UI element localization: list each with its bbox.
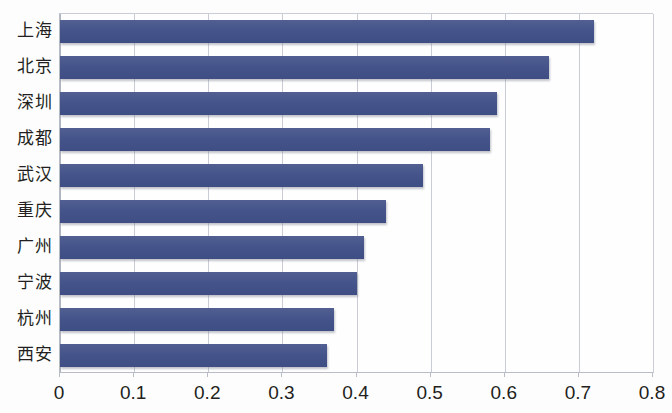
tick-mark (578, 373, 579, 377)
tick-label: 0.1 (120, 382, 146, 404)
bar-series (60, 14, 653, 373)
category-label: 上海 (0, 22, 52, 39)
tick-label: 0.5 (416, 382, 442, 404)
bar (60, 236, 364, 259)
tick-mark (356, 373, 357, 377)
tick-mark (652, 373, 653, 377)
category-label: 成都 (0, 130, 52, 147)
tick-label: 0.7 (565, 382, 591, 404)
category-label: 西安 (0, 346, 52, 363)
tick-label: 0.3 (268, 382, 294, 404)
tick-mark (207, 373, 208, 377)
tick-mark (430, 373, 431, 377)
tick-mark (59, 373, 60, 377)
bar (60, 128, 490, 151)
category-label: 北京 (0, 58, 52, 75)
category-label: 广州 (0, 238, 52, 255)
tick-label: 0.4 (342, 382, 368, 404)
category-label: 武汉 (0, 166, 52, 183)
tick-label: 0 (54, 382, 65, 404)
gridline (653, 14, 654, 373)
tick-label: 0.8 (639, 382, 665, 404)
category-label: 深圳 (0, 94, 52, 111)
category-label: 重庆 (0, 202, 52, 219)
category-label: 杭州 (0, 310, 52, 327)
category-axis: 上海北京深圳成都武汉重庆广州宁波杭州西安 (0, 13, 52, 372)
bar (60, 20, 594, 43)
tick-label: 0.6 (491, 382, 517, 404)
bar (60, 272, 357, 295)
horizontal-bar-chart: 上海北京深圳成都武汉重庆广州宁波杭州西安 00.10.20.30.40.50.6… (0, 0, 672, 413)
plot-area (59, 13, 653, 373)
tick-mark (504, 373, 505, 377)
bar (60, 308, 334, 331)
value-axis: 00.10.20.30.40.50.60.70.8 (0, 373, 672, 413)
bar (60, 200, 386, 223)
tick-label: 0.2 (194, 382, 220, 404)
bar (60, 164, 423, 187)
bar (60, 92, 497, 115)
bar (60, 344, 327, 367)
tick-mark (281, 373, 282, 377)
category-label: 宁波 (0, 274, 52, 291)
tick-mark (133, 373, 134, 377)
bar (60, 56, 549, 79)
